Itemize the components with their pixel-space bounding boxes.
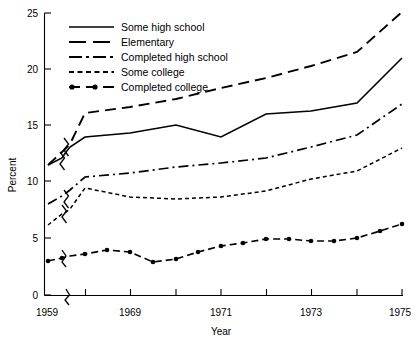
x-tick-label-1959: 1959	[36, 307, 59, 318]
legend-item-completed-college[interactable]: Completed college	[69, 81, 208, 93]
legend-label-elementary: Elementary	[121, 36, 175, 48]
x-tick-label-1975: 1975	[389, 307, 412, 318]
x-axis-title: Year	[211, 326, 232, 337]
legend-label-completed-high-school: Completed high school	[121, 51, 228, 63]
legend-label-completed-college: Completed college	[121, 81, 208, 93]
series-markers-completed-college	[46, 222, 405, 265]
chart-legend: Some high school Elementary Completed hi…	[69, 21, 228, 93]
y-axis-title: Percent	[7, 158, 18, 193]
y-tick-label-20: 20	[27, 64, 39, 75]
legend-label-some-college: Some college	[121, 66, 185, 78]
series-line-elementary	[48, 12, 402, 165]
legend-item-elementary[interactable]: Elementary	[69, 36, 175, 48]
series-line-some-college	[48, 148, 402, 225]
x-axis-break-mark	[65, 289, 70, 305]
legend-item-some-high-school[interactable]: Some high school	[69, 21, 204, 33]
legend-item-completed-high-school[interactable]: Completed high school	[69, 51, 228, 63]
x-tick-label-1971: 1971	[210, 307, 233, 318]
series-line-completed-college	[48, 224, 402, 262]
legend-item-some-college[interactable]: Some college	[69, 66, 185, 78]
x-axis-ticks	[86, 289, 403, 296]
x-tick-label-1973: 1973	[300, 307, 323, 318]
legend-marker-dot-right	[92, 84, 97, 89]
y-tick-label-10: 10	[27, 176, 39, 187]
y-tick-label-0: 0	[32, 290, 38, 301]
y-tick-label-25: 25	[27, 8, 39, 19]
y-tick-label-15: 15	[27, 120, 39, 131]
line-chart-svg: 25 20 15 10 5 0 Percent 1959 1969 1971 1…	[0, 0, 420, 352]
legend-label-some-high-school: Some high school	[121, 21, 204, 33]
chart-container: 25 20 15 10 5 0 Percent 1959 1969 1971 1…	[0, 0, 420, 352]
series-line-some-high-school	[48, 58, 402, 165]
series-break-marks	[60, 138, 69, 267]
y-tick-label-5: 5	[32, 233, 38, 244]
x-tick-label-1969: 1969	[119, 307, 142, 318]
legend-marker-dot-left	[69, 84, 74, 89]
y-axis-ticks	[45, 13, 52, 295]
series-line-completed-high-school	[48, 104, 402, 204]
